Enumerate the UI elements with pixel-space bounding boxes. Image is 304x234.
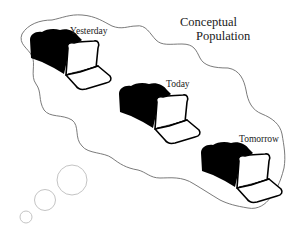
diagram-title-line2: Population [196, 29, 251, 43]
loaf-today: Today [119, 79, 200, 143]
loaf-label-yesterday: Yesterday [70, 26, 108, 36]
thought-bubble-large [57, 165, 87, 195]
loaf-label-tomorrow: Tomorrow [239, 134, 279, 144]
thought-bubble-small [20, 211, 32, 223]
diagram-title-line1: Conceptual [180, 15, 237, 29]
thought-bubble-medium [35, 190, 56, 211]
loaf-tomorrow: Tomorrow [201, 134, 282, 202]
conceptual-population-diagram: Conceptual Population Yesterday Today To… [0, 0, 304, 234]
loaf-label-today: Today [166, 79, 190, 89]
loaf-yesterday: Yesterday [30, 26, 111, 89]
bread-loaf-icon [30, 29, 111, 89]
bread-loaf-icon [201, 142, 282, 202]
bread-loaf-icon [119, 83, 200, 143]
